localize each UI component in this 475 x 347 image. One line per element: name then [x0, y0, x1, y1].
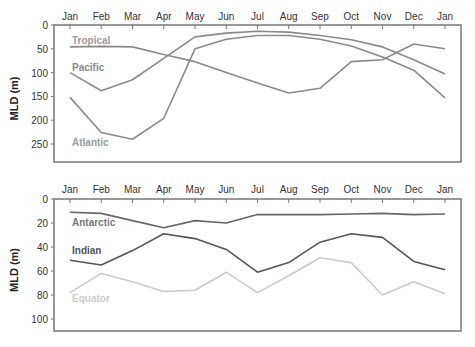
series-line-indian — [70, 234, 445, 272]
x-tick-label: Sep — [311, 11, 329, 22]
y-tick-label: 0 — [42, 20, 48, 31]
series-line-pacific — [70, 31, 445, 91]
y-tick-label: 150 — [31, 91, 48, 102]
chart-top-tropical-pacific-atlantic: JanFebMarAprMayJunJulAugSepOctNovDecJan0… — [0, 0, 475, 175]
series-label-equator: Equator — [72, 293, 110, 304]
y-tick-label: 100 — [31, 314, 48, 325]
series-label-atlantic: Atlantic — [72, 137, 109, 148]
y-axis-title: MLD (m) — [8, 248, 20, 292]
plot-frame — [54, 25, 461, 162]
series-line-atlantic — [70, 35, 445, 139]
y-tick-label: 200 — [31, 115, 48, 126]
x-tick-label: Dec — [405, 184, 423, 195]
chart-bottom-antarctic-indian-equator: JanFebMarAprMayJunJulAugSepOctNovDecJan0… — [0, 175, 475, 347]
chart-figure: JanFebMarAprMayJunJulAugSepOctNovDecJan0… — [0, 0, 475, 347]
series-label-antarctic: Antarctic — [72, 217, 116, 228]
y-tick-label: 40 — [37, 242, 49, 253]
y-tick-label: 250 — [31, 139, 48, 150]
x-tick-label: Jul — [251, 11, 264, 22]
x-tick-label: Feb — [93, 184, 111, 195]
x-tick-label: Sep — [311, 184, 329, 195]
x-tick-label: Jan — [437, 184, 453, 195]
y-tick-label: 80 — [37, 290, 49, 301]
x-tick-label: Jan — [437, 11, 453, 22]
x-tick-label: Nov — [374, 11, 392, 22]
y-tick-label: 60 — [37, 266, 49, 277]
series-label-indian: Indian — [72, 245, 101, 256]
y-tick-label: 100 — [31, 68, 48, 79]
y-tick-label: 50 — [37, 44, 49, 55]
series-label-tropical: Tropical — [72, 35, 111, 46]
x-tick-label: May — [186, 11, 205, 22]
x-tick-label: Apr — [156, 11, 172, 22]
x-tick-label: Jun — [218, 11, 234, 22]
x-tick-label: Jan — [62, 11, 78, 22]
x-tick-label: Aug — [280, 11, 298, 22]
series-line-antarctic — [70, 212, 445, 228]
series-line-tropical — [70, 44, 445, 93]
x-tick-label: Aug — [280, 184, 298, 195]
x-tick-label: Apr — [156, 184, 172, 195]
x-tick-label: Oct — [343, 184, 359, 195]
x-tick-label: Mar — [124, 11, 142, 22]
series-label-pacific: Pacific — [72, 62, 105, 73]
x-tick-label: Oct — [343, 11, 359, 22]
x-tick-label: Jun — [218, 184, 234, 195]
x-tick-label: Nov — [374, 184, 392, 195]
y-tick-label: 0 — [42, 194, 48, 205]
y-axis-title: MLD (m) — [8, 76, 20, 120]
series-line-equator — [70, 258, 445, 295]
x-tick-label: May — [186, 184, 205, 195]
x-tick-label: Jul — [251, 184, 264, 195]
x-tick-label: Mar — [124, 184, 142, 195]
y-tick-label: 20 — [37, 218, 49, 229]
x-tick-label: Feb — [93, 11, 111, 22]
x-tick-label: Dec — [405, 11, 423, 22]
x-tick-label: Jan — [62, 184, 78, 195]
